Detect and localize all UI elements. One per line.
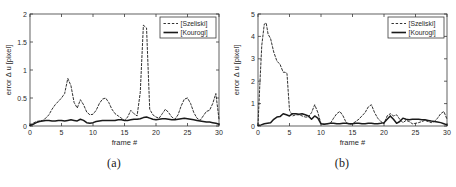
legend-label-szeliski: [Szeliski] — [181, 20, 208, 28]
y-tick-label: 2 — [23, 11, 27, 18]
plot-area-b: 051015202530012345frame #error Δ u [pixe… — [228, 0, 456, 158]
y-tick-label: 2 — [251, 78, 255, 85]
y-tick-label: 0 — [251, 123, 255, 130]
y-tick-label: 1.5 — [17, 39, 27, 46]
x-tick-label: 15 — [121, 129, 129, 136]
chart-panel-a: 05101520253000.511.52frame #error Δ u [p… — [0, 0, 228, 187]
x-tick-label: 10 — [317, 129, 325, 136]
x-tick-label: 0 — [28, 129, 32, 136]
subfigure-caption-b: (b) — [228, 156, 456, 171]
y-axis-label: error Δ u [pixel] — [232, 45, 241, 95]
chart-panel-b: 051015202530012345frame #error Δ u [pixe… — [228, 0, 456, 187]
figure-container: 05101520253000.511.52frame #error Δ u [p… — [0, 0, 456, 187]
y-axis-label: error Δ u [pixel] — [4, 45, 13, 95]
x-axis-label: frame # — [340, 138, 366, 147]
x-tick-label: 25 — [184, 129, 192, 136]
x-tick-label: 20 — [152, 129, 160, 136]
x-tick-label: 15 — [349, 129, 357, 136]
x-tick-label: 25 — [412, 129, 420, 136]
series-line-szeliski — [30, 25, 219, 125]
chart-legend: [Szeliski][Kourogi] — [160, 17, 216, 38]
x-tick-label: 5 — [288, 129, 292, 136]
y-tick-label: 0 — [23, 123, 27, 130]
y-tick-label: 0.5 — [17, 95, 27, 102]
series-line-kourogi — [258, 114, 447, 126]
x-tick-label: 20 — [380, 129, 388, 136]
x-tick-label: 30 — [443, 129, 451, 136]
x-axis-label: frame # — [112, 138, 138, 147]
x-tick-label: 5 — [60, 129, 64, 136]
x-tick-label: 10 — [89, 129, 97, 136]
y-tick-label: 5 — [251, 11, 255, 18]
legend-label-szeliski: [Szeliski] — [409, 20, 436, 28]
x-tick-label: 30 — [215, 129, 223, 136]
legend-label-kourogi: [Kourogi] — [409, 29, 436, 37]
chart-legend: [Szeliski][Kourogi] — [388, 17, 444, 38]
x-tick-label: 0 — [256, 129, 260, 136]
y-tick-label: 3 — [251, 55, 255, 62]
y-tick-label: 1 — [23, 67, 27, 74]
legend-label-kourogi: [Kourogi] — [181, 29, 208, 37]
subfigure-caption-a: (a) — [0, 156, 228, 171]
line-chart-b: 051015202530012345frame #error Δ u [pixe… — [228, 0, 456, 158]
y-tick-label: 4 — [251, 33, 255, 40]
y-tick-label: 1 — [251, 100, 255, 107]
plot-area-a: 05101520253000.511.52frame #error Δ u [p… — [0, 0, 228, 158]
line-chart-a: 05101520253000.511.52frame #error Δ u [p… — [0, 0, 228, 158]
